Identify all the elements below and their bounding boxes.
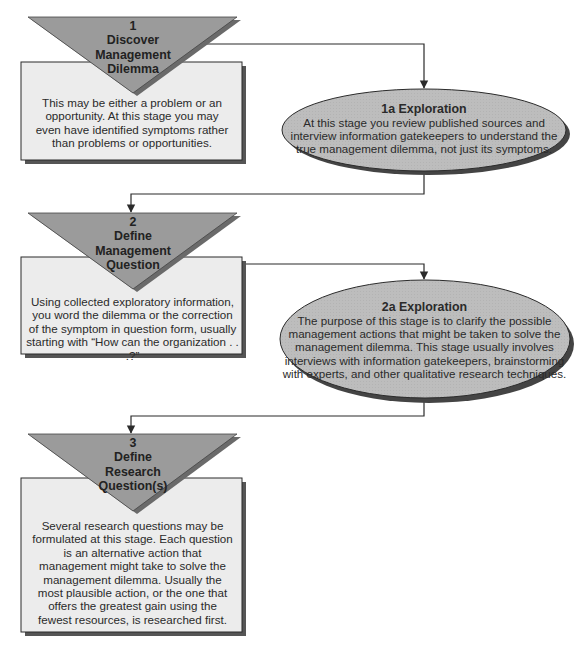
connector-2-to-2a: [243, 264, 424, 279]
stage-1-title-line3: Dilemma: [73, 62, 193, 76]
connector-1a-to-2: [131, 174, 424, 212]
stage-2-title-line3: Question: [73, 258, 193, 272]
stage-3-title-line2: Research: [73, 465, 193, 479]
stage-1-description: This may be either a problem or an oppor…: [32, 96, 232, 150]
exploration-2a-description: The purpose of this stage is to clarify …: [283, 314, 567, 380]
stage-3-number: 3: [73, 436, 193, 450]
exploration-2a-title: 2a Exploration: [282, 300, 567, 314]
stage-2-title-line1: Define: [73, 229, 193, 243]
exploration-1a-text: 1a Exploration At this stage you review …: [289, 102, 559, 156]
exploration-1a-title: 1a Exploration: [289, 102, 559, 116]
exploration-2a-text: 2a Exploration The purpose of this stage…: [282, 300, 567, 380]
stage-3-title: 3 Define Research Question(s): [73, 436, 193, 493]
stage-2-title-line2: Management: [73, 244, 193, 258]
stage-1-title-line1: Discover: [73, 33, 193, 47]
exploration-1a-description: At this stage you review published sourc…: [291, 116, 558, 155]
stage-2-number: 2: [73, 215, 193, 229]
stage-2-title: 2 Define Management Question: [73, 215, 193, 272]
stage-3-title-line3: Question(s): [73, 479, 193, 493]
stage-3-description: Several research questions may be formul…: [30, 519, 235, 626]
connector-2a-to-3: [131, 400, 424, 433]
stage-1-title-line2: Management: [73, 48, 193, 62]
stage-2-description: Using collected exploratory information,…: [26, 295, 239, 362]
stage-1-title: 1 Discover Management Dilemma: [73, 19, 193, 76]
stage-1-number: 1: [73, 19, 193, 33]
stage-3-title-line1: Define: [73, 450, 193, 464]
